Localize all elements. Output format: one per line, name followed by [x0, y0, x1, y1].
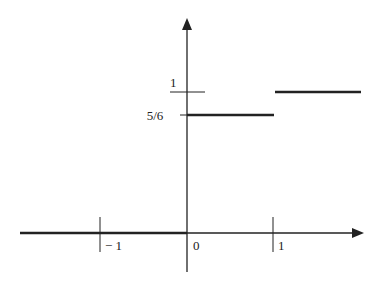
y-axis-arrow-icon	[182, 18, 192, 30]
step-function-chart: − 1 0 1 1 5/6	[0, 0, 387, 285]
x-label-one: 1	[278, 238, 285, 253]
x-label-neg1: − 1	[105, 238, 122, 253]
x-label-zero: 0	[193, 238, 200, 253]
y-label-one: 1	[170, 75, 177, 90]
y-label-five-sixths: 5/6	[147, 108, 164, 123]
x-axis-arrow-icon	[352, 228, 364, 238]
